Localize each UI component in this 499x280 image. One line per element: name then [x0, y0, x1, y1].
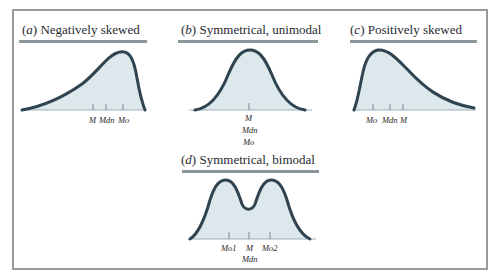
- panel-a-label-m: M: [88, 115, 97, 125]
- panel-c-label-mdn: Mdn: [381, 115, 398, 125]
- distribution-curves: M Mdn Mo M Mdn Mo Mo Mdn M Mo1 M Mo2 Mdn: [0, 0, 499, 280]
- panel-c-label-m: M: [399, 115, 408, 125]
- curve-negatively-skewed: [22, 52, 145, 110]
- panel-d-label-m: M: [245, 243, 254, 253]
- curve-symmetrical-unimodal: [189, 50, 312, 110]
- curve-symmetrical-bimodal: [188, 180, 316, 239]
- panel-b-label-mo: Mo: [242, 137, 254, 147]
- panel-a-label-mo: Mo: [117, 115, 129, 125]
- panel-b-label-m: M: [244, 113, 253, 123]
- panel-c-label-mo: Mo: [365, 115, 377, 125]
- panel-a-label-mdn: Mdn: [98, 115, 115, 125]
- panel-d-label-mdn: Mdn: [241, 254, 258, 264]
- panel-d-label-mo1: Mo1: [220, 243, 237, 253]
- panel-d-label-mo2: Mo2: [261, 243, 278, 253]
- curve-positively-skewed: [352, 50, 476, 110]
- panel-b-label-mdn: Mdn: [241, 125, 258, 135]
